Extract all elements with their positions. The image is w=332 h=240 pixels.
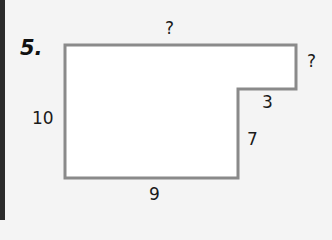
label-bottom: 9 bbox=[149, 186, 160, 203]
label-step-horizontal: 3 bbox=[262, 94, 273, 111]
label-left: 10 bbox=[32, 110, 54, 127]
label-step-vertical: 7 bbox=[247, 131, 258, 148]
label-right-top: ? bbox=[307, 53, 316, 70]
label-top: ? bbox=[165, 20, 174, 37]
